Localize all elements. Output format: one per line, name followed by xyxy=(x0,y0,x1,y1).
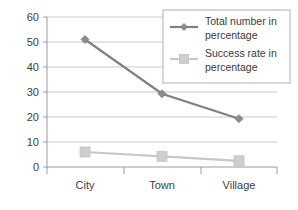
y-axis-label-50: 50 xyxy=(27,36,39,48)
chart-container: 60 50 40 30 20 10 0 City Town Village xyxy=(0,0,298,210)
y-axis-label-20: 20 xyxy=(27,111,39,123)
y-axis-label-40: 40 xyxy=(27,61,39,73)
y-axis-label-60: 60 xyxy=(27,11,39,23)
x-axis-label-city: City xyxy=(76,179,95,191)
legend-label-success-rate-line1: Success rate in xyxy=(205,47,277,59)
y-axis-label-30: 30 xyxy=(27,86,39,98)
chart-legend: Total number in percentage Success rate … xyxy=(163,10,290,83)
y-axis-label-0: 0 xyxy=(33,161,39,173)
legend-label-total-number-line1: Total number in xyxy=(205,15,277,27)
line-chart: 60 50 40 30 20 10 0 City Town Village xyxy=(0,0,298,210)
series-success-rate-point-town xyxy=(157,151,167,161)
legend-label-total-number-line2: percentage xyxy=(205,29,258,41)
x-axis-label-village: Village xyxy=(223,179,256,191)
y-axis-label-10: 10 xyxy=(27,136,39,148)
series-success-rate-point-city xyxy=(80,147,90,157)
legend-label-success-rate-line2: percentage xyxy=(205,61,258,73)
x-axis-label-town: Town xyxy=(149,179,175,191)
series-success-rate-point-village xyxy=(234,156,244,166)
legend-marker-success-rate xyxy=(180,55,189,64)
